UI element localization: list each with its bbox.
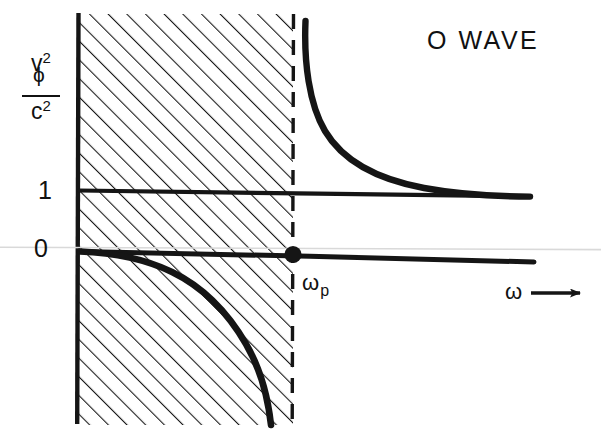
cutoff-frequency-label: ωp xyxy=(302,272,328,294)
y-axis-label: v2ϕ c2 xyxy=(18,52,64,123)
cutoff-frequency-subscript: p xyxy=(320,282,329,299)
figure-title: O WAVE xyxy=(427,28,539,53)
x-axis-label: ω xyxy=(505,281,522,303)
evanescent-region-hatch xyxy=(79,14,293,425)
y-axis-denominator-exponent: 2 xyxy=(43,97,51,114)
o-wave-dispersion-figure: v2ϕ c2 1 0 ωp ω O WAVE xyxy=(0,0,601,448)
dispersion-plot-svg xyxy=(0,0,601,448)
cutoff-frequency-symbol: ω xyxy=(302,270,319,295)
y-tick-label-one: 1 xyxy=(38,178,52,203)
cutoff-point-marker xyxy=(284,246,301,263)
y-axis-label-numerator: v2ϕ xyxy=(18,52,64,82)
y-axis-numerator-subscript: ϕ xyxy=(33,64,45,85)
y-axis-label-denominator: c2 xyxy=(18,100,64,123)
y-axis-denominator-base: c xyxy=(31,98,43,124)
y-axis-line xyxy=(77,13,78,424)
y-axis-label-fraction-bar xyxy=(22,95,60,97)
y-tick-label-zero: 0 xyxy=(34,236,48,261)
